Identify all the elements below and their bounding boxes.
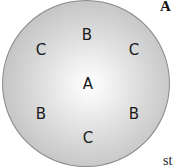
zone-label-center: A	[83, 77, 93, 92]
panel-label: A	[160, 0, 171, 14]
zone-label-upper-right: C	[129, 43, 139, 58]
zone-label-top: B	[82, 28, 92, 43]
zone-label-upper-left: C	[36, 43, 46, 58]
zone-label-lower-right: B	[129, 107, 139, 122]
zone-label-lower-left: B	[36, 107, 46, 122]
caption-fragment: st	[163, 154, 172, 168]
zone-label-bottom: C	[83, 131, 93, 146]
